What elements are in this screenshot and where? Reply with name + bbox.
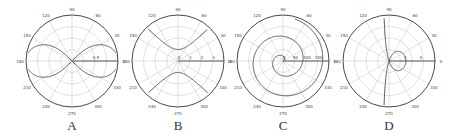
svg-text:150: 150 [129,33,137,38]
svg-text:90: 90 [386,7,392,12]
svg-text:300: 300 [411,104,419,109]
panel-label-d: D [332,118,446,134]
svg-text:240: 240 [253,104,261,109]
polar-panel-d: 030609012015018021024027030033024 D [332,0,446,136]
svg-text:4: 4 [419,55,422,60]
svg-text:60: 60 [201,13,207,18]
svg-text:120: 120 [42,13,50,18]
svg-text:120: 120 [359,13,367,18]
svg-text:180: 180 [333,59,341,64]
svg-text:30: 30 [114,33,120,38]
svg-text:270: 270 [385,111,393,116]
svg-text:300: 300 [305,104,313,109]
svg-text:270: 270 [174,111,182,116]
polar-plot-d: 030609012015018021024027030033024 [332,0,446,120]
svg-text:120: 120 [148,13,156,18]
svg-text:300: 300 [200,104,208,109]
svg-text:0.5: 0.5 [93,55,100,60]
svg-text:270: 270 [68,111,76,116]
svg-text:30: 30 [325,33,331,38]
svg-text:150: 150 [23,33,31,38]
svg-text:150: 150 [234,33,242,38]
svg-text:60: 60 [306,13,312,18]
svg-text:330: 330 [430,85,438,90]
svg-text:60: 60 [95,13,101,18]
svg-text:180: 180 [227,59,235,64]
svg-text:180: 180 [16,59,24,64]
svg-text:2: 2 [201,55,204,60]
polar-plot-c: 0306090120150180210240270300330050100150 [226,0,340,120]
svg-text:210: 210 [234,85,242,90]
svg-text:3: 3 [212,55,215,60]
svg-text:150: 150 [315,55,323,60]
polar-panel-a: 03060901201501802102402703003300.5 A [15,0,129,136]
svg-text:1: 1 [189,55,192,60]
svg-text:30: 30 [431,33,437,38]
panel-label-c: C [226,118,340,134]
panel-label-a: A [15,118,129,134]
svg-text:240: 240 [148,104,156,109]
svg-text:240: 240 [359,104,367,109]
svg-text:120: 120 [253,13,261,18]
svg-text:0: 0 [178,55,181,60]
svg-text:210: 210 [129,85,137,90]
svg-text:90: 90 [175,7,181,12]
svg-text:90: 90 [280,7,286,12]
svg-text:240: 240 [42,104,50,109]
svg-text:270: 270 [279,111,287,116]
svg-text:90: 90 [69,7,75,12]
svg-text:60: 60 [412,13,418,18]
svg-text:150: 150 [340,33,348,38]
svg-text:50: 50 [293,55,299,60]
svg-text:180: 180 [122,59,130,64]
svg-text:0: 0 [440,59,443,64]
svg-text:300: 300 [94,104,102,109]
polar-panel-c: 0306090120150180210240270300330050100150… [226,0,340,136]
svg-text:100: 100 [303,55,311,60]
svg-text:210: 210 [23,85,31,90]
polar-panel-b: 03060901201501802102402703003300123 B [121,0,235,136]
polar-plot-a: 03060901201501802102402703003300.5 [15,0,129,120]
polar-plot-b: 03060901201501802102402703003300123 [121,0,235,120]
svg-text:210: 210 [340,85,348,90]
panel-label-b: B [121,118,235,134]
